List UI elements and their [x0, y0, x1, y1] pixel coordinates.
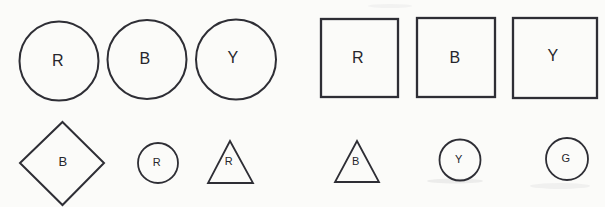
smudge-bottom-right [530, 183, 590, 189]
large-circle-y: Y [196, 20, 276, 100]
diagram-canvas: RBYRBYBRRBYG [0, 0, 605, 207]
large-square-r-label: R [352, 49, 364, 66]
large-square-b-label: B [449, 49, 460, 66]
large-circle-b: B [108, 20, 187, 99]
shapes-figure: RBYRBYBRRBYG [0, 0, 605, 207]
large-circle-r: R [20, 22, 99, 101]
triangle-r-label: R [225, 155, 233, 167]
small-circle-y: Y [440, 140, 481, 181]
triangle-r: R [208, 141, 253, 183]
smudge-top-center [368, 4, 412, 8]
large-square-y-label: Y [547, 47, 558, 64]
large-square-r: R [321, 19, 398, 97]
large-circle-y-label: Y [227, 49, 238, 66]
small-circle-r-label: R [153, 156, 161, 168]
triangle-b-label: B [352, 155, 360, 167]
small-circle-r: R [138, 143, 178, 183]
large-square-b: B [417, 18, 495, 97]
small-circle-g-label: G [561, 152, 570, 164]
large-circle-b-label: B [139, 50, 150, 67]
small-circle-g: G [546, 138, 588, 180]
triangle-b: B [335, 141, 379, 182]
small-circle-y-label: Y [455, 153, 463, 165]
large-square-y: Y [513, 18, 597, 98]
large-circle-r-label: R [52, 52, 64, 69]
diamond-b-label: B [58, 154, 67, 169]
diamond-b: B [20, 122, 104, 205]
